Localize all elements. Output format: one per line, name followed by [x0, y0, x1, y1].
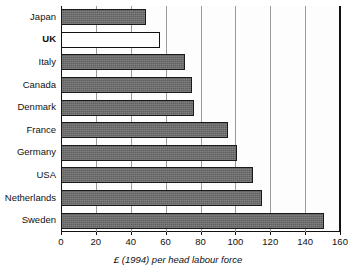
bar-denmark[interactable] [61, 100, 194, 116]
bar-sweden[interactable] [61, 213, 324, 229]
category-label-japan: Japan [0, 12, 56, 22]
category-label-uk: UK [0, 34, 56, 44]
category-label-usa: USA [0, 170, 56, 180]
x-tick-label-140: 140 [290, 236, 320, 247]
tick-mark-60 [166, 232, 167, 235]
tick-mark-140 [305, 232, 306, 235]
category-label-france: France [0, 125, 56, 135]
x-tick-label-0: 0 [46, 236, 76, 247]
category-label-canada: Canada [0, 80, 56, 90]
x-tick-label-160: 160 [325, 236, 355, 247]
bar-france[interactable] [61, 122, 228, 138]
category-label-germany: Germany [0, 147, 56, 157]
tick-mark-160 [340, 232, 341, 235]
category-label-sweden: Sweden [0, 215, 56, 225]
x-axis-title: £ (1994) per head labour force [0, 254, 356, 266]
bar-japan[interactable] [61, 9, 146, 25]
tick-mark-0 [61, 232, 62, 235]
bar-netherlands[interactable] [61, 190, 262, 206]
tick-mark-120 [270, 232, 271, 235]
x-tick-label-60: 60 [151, 236, 181, 247]
x-tick-label-40: 40 [116, 236, 146, 247]
bar-canada[interactable] [61, 77, 192, 93]
category-label-denmark: Denmark [0, 102, 56, 112]
bar-italy[interactable] [61, 54, 185, 70]
x-tick-label-120: 120 [255, 236, 285, 247]
bar-usa[interactable] [61, 167, 253, 183]
bar-uk[interactable] [61, 32, 160, 48]
tick-mark-40 [131, 232, 132, 235]
x-tick-label-100: 100 [220, 236, 250, 247]
tick-mark-80 [201, 232, 202, 235]
category-label-italy: Italy [0, 57, 56, 67]
category-label-netherlands: Netherlands [0, 193, 56, 203]
x-tick-label-80: 80 [186, 236, 216, 247]
bar-chart: JapanUKItalyCanadaDenmarkFranceGermanyUS… [0, 0, 356, 272]
bar-germany[interactable] [61, 145, 237, 161]
tick-mark-20 [96, 232, 97, 235]
x-tick-label-20: 20 [81, 236, 111, 247]
tick-mark-100 [235, 232, 236, 235]
